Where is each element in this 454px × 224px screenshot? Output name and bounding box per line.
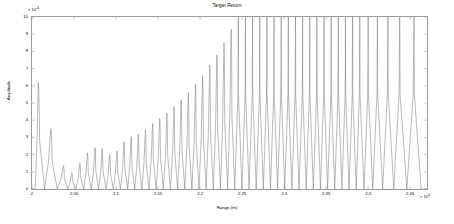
x-tick-label: 2.1 xyxy=(113,192,119,196)
x-tick-label: 2.2 xyxy=(197,192,203,196)
x-tick-label: 2.25 xyxy=(238,192,246,196)
x-tick-label: 2.45 xyxy=(406,192,414,196)
target-return-waveform xyxy=(32,17,427,189)
x-tick-label: 2.35 xyxy=(322,192,330,196)
x-tick-label: 2 xyxy=(31,192,33,196)
data-line-svg xyxy=(32,17,427,189)
figure-canvas: Target Return × 10-4 × 105 Amplitude Ran… xyxy=(0,0,454,224)
x-tick-label: 2.15 xyxy=(154,192,162,196)
x-tick-label: 2.05 xyxy=(70,192,78,196)
plot-area xyxy=(31,16,428,190)
x-tick-label: 2.3 xyxy=(281,192,287,196)
x-tick-label: 2.4 xyxy=(365,192,371,196)
